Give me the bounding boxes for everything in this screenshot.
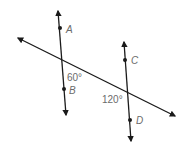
label-c: C (131, 55, 139, 66)
geometry-diagram: A B C D 60° 120° (0, 0, 186, 147)
point-b (62, 87, 66, 91)
point-a (58, 26, 62, 30)
label-d: D (136, 115, 143, 126)
label-b: B (69, 85, 76, 96)
transversal-line (18, 38, 175, 116)
label-a: A (65, 24, 73, 35)
point-c (123, 58, 127, 62)
angle-label-120: 120° (102, 94, 123, 105)
point-d (128, 118, 132, 122)
angle-label-60: 60° (67, 72, 82, 83)
